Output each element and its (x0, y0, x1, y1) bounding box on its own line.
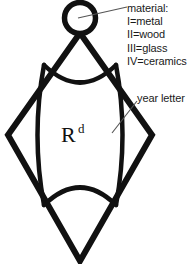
bottom-inner-arc (44, 188, 116, 206)
material-legend-item-4: IV=ceramics (127, 55, 187, 68)
material-legend-heading: material: (127, 2, 187, 15)
material-legend-item-2: II=wood (127, 28, 187, 41)
material-legend-item-3: III=glass (127, 42, 187, 55)
material-legend-item-1: I=metal (127, 15, 187, 28)
mark-superscript: d (78, 121, 85, 136)
mark-letter: R (61, 122, 76, 147)
year-letter-label: year letter (137, 92, 185, 105)
hallmark-diagram-figure: R d material: I=metal II=wood III=glass … (0, 0, 194, 264)
material-legend: material: I=metal II=wood III=glass IV=c… (127, 2, 187, 68)
